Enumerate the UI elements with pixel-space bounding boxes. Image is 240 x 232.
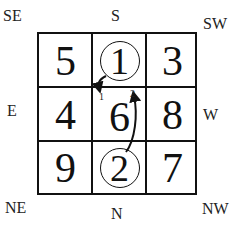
arrow-label-2: 2 (130, 89, 135, 99)
arrow-2 (126, 96, 136, 152)
arrow-1 (99, 76, 106, 88)
arrows-overlay (0, 0, 240, 232)
arrow-label-1: 1 (99, 92, 104, 102)
